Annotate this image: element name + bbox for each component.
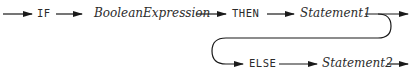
keyword-if: IF [37, 8, 51, 19]
nonterminal-boolean-expression: BooleanExpression [94, 7, 210, 19]
if-then-else-syntax-diagram: IF BooleanExpression THEN Statement1 ELS… [0, 0, 410, 72]
nonterminal-statement2: Statement2 [322, 57, 393, 69]
keyword-then: THEN [232, 8, 259, 19]
nonterminal-statement1: Statement1 [300, 7, 371, 19]
keyword-else: ELSE [249, 58, 276, 69]
